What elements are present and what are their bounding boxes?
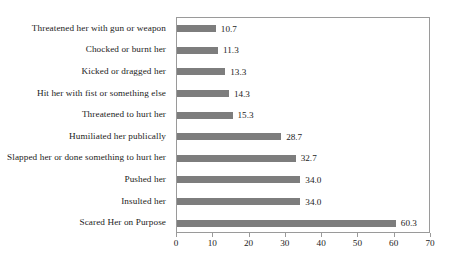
bar bbox=[177, 176, 300, 183]
x-tick-label: 70 bbox=[425, 238, 434, 248]
x-tick-mark bbox=[249, 233, 250, 237]
x-tick-label: 40 bbox=[317, 238, 326, 248]
category-label: Humiliated her publically bbox=[69, 131, 166, 141]
bar bbox=[177, 25, 216, 32]
category-label: Hit her with fist or something else bbox=[37, 88, 166, 98]
bar bbox=[177, 220, 396, 227]
bar bbox=[177, 155, 296, 162]
bar-row: 14.3 bbox=[177, 83, 429, 105]
bar bbox=[177, 112, 233, 119]
bar bbox=[177, 198, 300, 205]
plot-area: 10.711.313.314.315.328.732.734.034.060.3 bbox=[176, 17, 430, 233]
category-row: Chocked or burnt her bbox=[0, 39, 171, 61]
x-tick-label: 30 bbox=[280, 238, 289, 248]
category-label: Scared Her on Purpose bbox=[79, 217, 166, 227]
x-tick-label: 0 bbox=[174, 238, 179, 248]
category-label: Threatened to hurt her bbox=[82, 109, 166, 119]
x-tick-mark bbox=[212, 233, 213, 237]
x-tick-label: 10 bbox=[208, 238, 217, 248]
bar-row: 11.3 bbox=[177, 40, 429, 62]
x-tick-label: 50 bbox=[353, 238, 362, 248]
bar-value-label: 11.3 bbox=[223, 45, 239, 55]
category-row: Humiliated her publically bbox=[0, 125, 171, 147]
bar bbox=[177, 47, 218, 54]
bar-row: 28.7 bbox=[177, 126, 429, 148]
x-tick-mark bbox=[430, 233, 431, 237]
bar-row: 15.3 bbox=[177, 104, 429, 126]
x-tick-mark bbox=[176, 233, 177, 237]
category-row: Kicked or dragged her bbox=[0, 60, 171, 82]
category-label: Threatened her with gun or weapon bbox=[32, 23, 166, 33]
bar-value-label: 28.7 bbox=[286, 132, 302, 142]
category-row: Scared Her on Purpose bbox=[0, 211, 171, 233]
x-tick-mark bbox=[285, 233, 286, 237]
x-tick-label: 60 bbox=[389, 238, 398, 248]
category-row: Pushed her bbox=[0, 168, 171, 190]
category-row: Threatened to hurt her bbox=[0, 103, 171, 125]
bar-value-label: 13.3 bbox=[230, 67, 246, 77]
bar-row: 60.3 bbox=[177, 212, 429, 234]
category-row: Slapped her or done something to hurt he… bbox=[0, 147, 171, 169]
bar-value-label: 14.3 bbox=[234, 89, 250, 99]
bar bbox=[177, 90, 229, 97]
bar-value-label: 32.7 bbox=[301, 153, 317, 163]
category-label: Pushed her bbox=[124, 174, 166, 184]
category-axis-labels: Threatened her with gun or weaponChocked… bbox=[0, 17, 171, 233]
category-row: Threatened her with gun or weapon bbox=[0, 17, 171, 39]
bar-value-label: 34.0 bbox=[305, 197, 321, 207]
bar-row: 32.7 bbox=[177, 148, 429, 170]
x-axis: 010203040506070 bbox=[176, 233, 430, 257]
category-label: Slapped her or done something to hurt he… bbox=[7, 152, 166, 162]
bar-value-label: 34.0 bbox=[305, 175, 321, 185]
bar-row: 13.3 bbox=[177, 61, 429, 83]
x-tick-label: 20 bbox=[244, 238, 253, 248]
bar bbox=[177, 133, 281, 140]
bar bbox=[177, 68, 225, 75]
x-tick-mark bbox=[394, 233, 395, 237]
bars-layer: 10.711.313.314.315.328.732.734.034.060.3 bbox=[177, 18, 429, 232]
x-tick-mark bbox=[357, 233, 358, 237]
category-label: Kicked or dragged her bbox=[82, 66, 167, 76]
bar-value-label: 10.7 bbox=[221, 24, 237, 34]
bar-row: 34.0 bbox=[177, 169, 429, 191]
bar-chart: Threatened her with gun or weaponChocked… bbox=[0, 0, 454, 265]
bar-value-label: 15.3 bbox=[238, 110, 254, 120]
bar-row: 34.0 bbox=[177, 191, 429, 213]
category-label: Insulted her bbox=[121, 196, 166, 206]
category-row: Insulted her bbox=[0, 190, 171, 212]
bar-value-label: 60.3 bbox=[401, 218, 417, 228]
bar-row: 10.7 bbox=[177, 18, 429, 40]
category-label: Chocked or burnt her bbox=[86, 44, 166, 54]
x-tick-mark bbox=[321, 233, 322, 237]
category-row: Hit her with fist or something else bbox=[0, 82, 171, 104]
